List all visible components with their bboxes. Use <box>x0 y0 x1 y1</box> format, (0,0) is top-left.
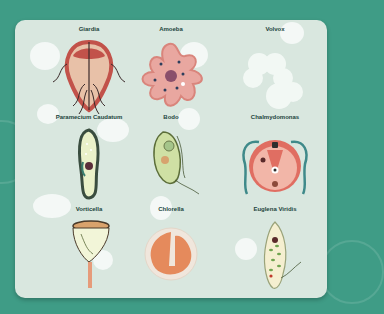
cell-bodo: Bodo <box>119 112 223 204</box>
organism-label: Chlorella <box>119 206 223 212</box>
organism-label: Volvox <box>223 26 327 32</box>
cell-chlorella: Chlorella <box>119 204 223 296</box>
cell-euglena: Euglena Viridis <box>223 204 327 296</box>
volvox-illustration <box>223 34 327 116</box>
cell-volvox: Volvox <box>223 24 327 116</box>
cell-chalmydomonas: Chalmydomonas <box>223 112 327 204</box>
amoeba-illustration <box>119 34 223 116</box>
organism-label: Euglena Viridis <box>223 206 327 212</box>
organism-label: Bodo <box>119 114 223 120</box>
chlorella-illustration <box>119 214 223 296</box>
background-decoration <box>320 240 384 304</box>
euglena-illustration <box>223 214 327 296</box>
bodo-illustration <box>119 122 223 204</box>
cell-amoeba: Amoeba <box>119 24 223 116</box>
chalmydomonas-illustration <box>223 122 327 204</box>
organism-label: Amoeba <box>119 26 223 32</box>
organism-label: Chalmydomonas <box>223 114 327 120</box>
protists-card: Giardia Amoeba Volvox <box>15 20 327 298</box>
